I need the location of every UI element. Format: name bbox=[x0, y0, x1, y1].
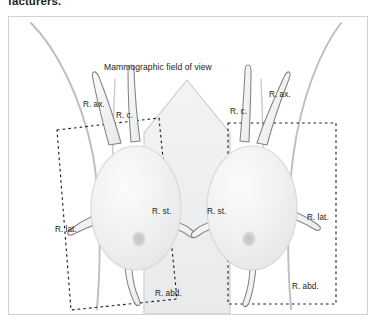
left-nipple bbox=[132, 231, 146, 247]
clipped-body-text: facturers. bbox=[8, 0, 61, 8]
label-left-lateral: R. lat. bbox=[55, 225, 77, 234]
label-right-axilla: R. ax. bbox=[269, 90, 291, 99]
right-nipple bbox=[242, 231, 256, 247]
label-left-axilla: R. ax. bbox=[83, 100, 105, 109]
label-right-central: R. c. bbox=[230, 107, 247, 116]
label-left-central: R. c. bbox=[116, 111, 133, 120]
label-right-sternal: R. st. bbox=[207, 207, 226, 216]
figure-title-label: Mammographic field of view bbox=[104, 62, 212, 72]
label-right-abdominal: R. abd. bbox=[292, 282, 319, 291]
label-left-abdominal: R. abd. bbox=[155, 289, 182, 298]
figure-frame: Mammographic field of view R. ax. R. c. … bbox=[8, 16, 368, 315]
label-right-lateral: R. lat. bbox=[307, 213, 329, 222]
label-left-sternal: R. st. bbox=[152, 207, 171, 216]
figure-page: facturers. bbox=[0, 0, 377, 326]
